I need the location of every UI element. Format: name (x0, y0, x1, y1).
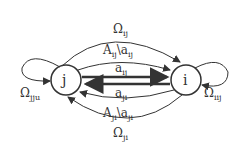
label-A-ij: Aij\aij (103, 43, 133, 59)
label-omega-iij: Ωiij (204, 86, 222, 102)
label-omega-ji: Ωji (113, 126, 128, 142)
node-j-label: j (62, 72, 66, 88)
node-i-label: i (183, 72, 187, 88)
label-A-ji: Aji\aji (103, 106, 133, 122)
label-omega-jju: Ωjju (20, 86, 40, 102)
label-a-ji: aji (115, 86, 127, 102)
label-a-ij: aij (115, 61, 127, 77)
label-omega-ij: Ωij (113, 22, 128, 38)
